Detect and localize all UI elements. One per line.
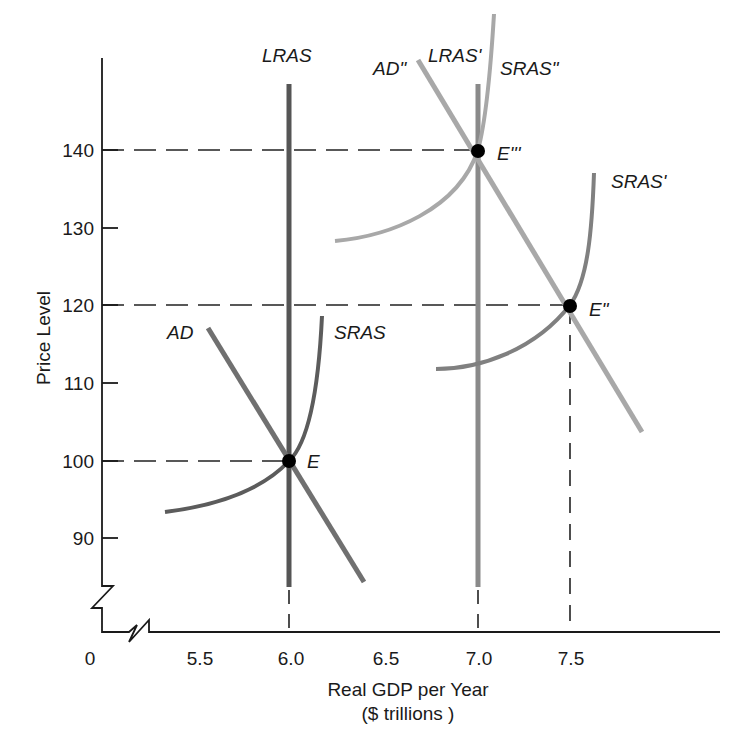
x-axis-title: Real GDP per Year (327, 679, 489, 700)
y-tick-label-100: 100 (62, 451, 94, 472)
label-lras-prime: LRAS' (428, 45, 483, 66)
as-ad-chart: 140 130 120 110 100 90 0 5.5 6.0 6.5 7.0… (0, 0, 747, 741)
equilibrium-e (282, 454, 296, 468)
ad-double-prime-line (418, 60, 642, 432)
x-tick-label-6-5: 6.5 (373, 648, 399, 669)
label-sras: SRAS (334, 322, 386, 343)
y-tick-label-120: 120 (62, 295, 94, 316)
y-tick-label-110: 110 (64, 373, 94, 394)
label-e: E (307, 451, 320, 472)
axes (92, 58, 720, 642)
y-tick-label-130: 130 (62, 218, 94, 239)
label-lras: LRAS (262, 45, 312, 66)
label-ad: AD (166, 322, 194, 343)
equilibrium-e-triple-prime (471, 144, 485, 158)
label-e-triple-prime: E''' (497, 143, 522, 164)
y-axis-title: Price Level (33, 291, 54, 385)
label-sras-prime: SRAS' (611, 171, 668, 192)
y-tick-label-140: 140 (62, 140, 94, 161)
x-tick-label-7-0: 7.0 (466, 648, 492, 669)
y-tick-label-90: 90 (73, 528, 94, 549)
equilibrium-e-double-prime (563, 299, 577, 313)
label-e-double-prime: E" (589, 299, 610, 320)
label-ad-double-prime: AD" (372, 58, 407, 79)
reference-lines (102, 150, 570, 632)
sras-curve (165, 316, 322, 512)
axis-lines (92, 58, 720, 642)
label-sras-double-prime: SRAS" (500, 58, 560, 79)
x-tick-label-5-5: 5.5 (187, 648, 213, 669)
x-tick-label-0: 0 (85, 648, 96, 669)
x-tick-label-7-5: 7.5 (558, 648, 584, 669)
x-axis-subtitle: ($ trillions ) (362, 703, 455, 724)
x-tick-label-6-0: 6.0 (278, 648, 304, 669)
